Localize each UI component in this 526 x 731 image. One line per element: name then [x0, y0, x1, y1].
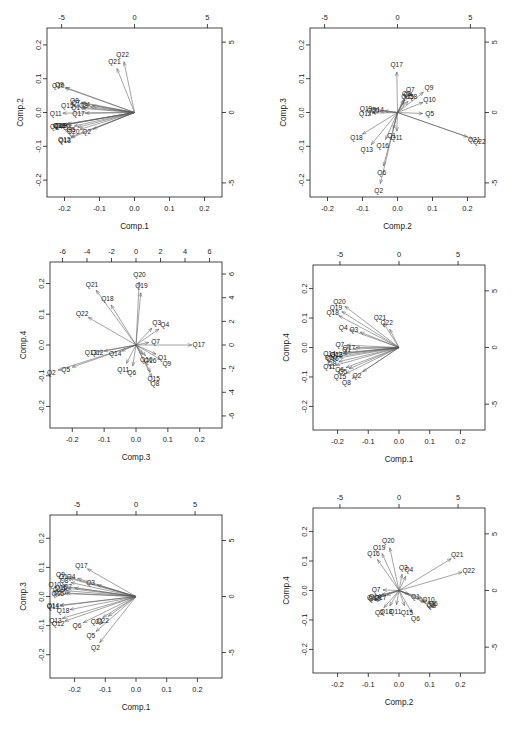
- biplot-panel-panel-comp2-comp3: -0.2-0.10.00.10.2-0.2-0.10.00.10.2-50550…: [263, 0, 526, 240]
- loading-vector-label: Q5: [61, 366, 70, 374]
- x-tick-label: -0.1: [362, 680, 375, 689]
- x-tick-label: -0.1: [98, 435, 111, 444]
- loading-vector-label: Q21: [86, 281, 99, 289]
- right-axis-tick-label: 0: [227, 594, 236, 598]
- y-tick-label: -0.2: [297, 174, 306, 187]
- right-axis-tick-label: -5: [490, 401, 499, 408]
- loading-vector-Q19: Q19: [135, 282, 148, 345]
- loading-vector-Q7: Q7: [136, 338, 160, 346]
- loading-vector-label: Q20: [333, 298, 346, 306]
- loading-vector-label: Q15: [147, 375, 160, 383]
- right-axis-tick-label: 0: [227, 343, 236, 347]
- right-axis-tick-label: -4: [227, 389, 236, 396]
- loading-vector-label: Q5: [86, 632, 95, 640]
- x-tick-label: -0.2: [66, 435, 79, 444]
- top-axis-tick-label: -5: [337, 493, 344, 502]
- x-tick-label: 0.0: [394, 680, 404, 689]
- right-axis-tick-label: -5: [227, 180, 236, 187]
- loading-vector-label: Q14: [109, 350, 122, 358]
- top-axis-tick-label: 0: [397, 493, 401, 502]
- x-tick-label: -0.1: [356, 204, 369, 213]
- loading-vector-label: Q18: [380, 608, 393, 616]
- top-axis-tick-label: 5: [205, 13, 209, 22]
- loading-vector-label: Q17: [75, 562, 88, 570]
- right-axis-tick-label: 0: [490, 345, 499, 349]
- biplot-panel-panel-comp2-comp4: -0.2-0.10.00.10.2-0.2-0.10.00.10.2-50550…: [263, 490, 526, 731]
- loading-vector-label: Q15: [334, 373, 347, 381]
- loading-vector-Q11: Q11: [391, 113, 403, 143]
- loading-vector-label: Q2: [91, 644, 100, 652]
- top-axis-tick-label: -5: [74, 500, 81, 509]
- x-axis-label: Comp.2: [383, 222, 412, 231]
- y-tick-label: 0.0: [37, 591, 46, 601]
- x-tick-label: -0.2: [58, 204, 71, 213]
- x-tick-label: 0.2: [462, 204, 472, 213]
- x-axis-label: Comp.1: [122, 703, 151, 712]
- loading-vector-label: Q22: [462, 567, 475, 575]
- loading-vector-label: Q13: [85, 349, 98, 357]
- y-tick-label: 0.2: [300, 526, 309, 536]
- loading-vector-label: Q17: [72, 110, 85, 118]
- loading-vector-label: Q20: [67, 128, 80, 136]
- loading-vector-Q14: Q14: [109, 345, 136, 358]
- x-tick-label: -0.2: [331, 437, 344, 446]
- right-axis-tick-label: -6: [227, 413, 236, 420]
- loading-vector-label: Q19: [55, 122, 68, 130]
- right-axis-tick-label: 0: [490, 588, 499, 592]
- top-axis-tick-label: 5: [456, 250, 460, 259]
- loading-vector-label: Q10: [422, 596, 435, 604]
- right-axis-tick-label: -5: [490, 180, 499, 187]
- x-tick-label: 0.1: [425, 680, 435, 689]
- loading-vector-label: Q2: [47, 369, 56, 377]
- x-tick-label: -0.2: [68, 685, 81, 694]
- y-tick-label: -0.1: [297, 140, 306, 153]
- y-tick-label: -0.2: [37, 400, 46, 413]
- y-axis-label: Comp.2: [16, 98, 25, 127]
- y-tick-label: 0.1: [297, 74, 306, 84]
- loading-vector-label: Q22: [473, 138, 486, 146]
- x-tick-label: 0.1: [427, 204, 437, 213]
- y-tick-label: 0.0: [297, 107, 306, 117]
- right-axis-tick-label: 5: [490, 532, 499, 536]
- loading-vector-Q17: Q17: [75, 562, 136, 597]
- right-axis-tick-label: 5: [227, 538, 236, 542]
- loading-vector-label: Q15: [401, 93, 414, 101]
- top-axis-tick-label: -5: [321, 13, 328, 22]
- x-tick-label: 0.2: [195, 435, 205, 444]
- x-tick-label: 0.2: [199, 204, 209, 213]
- loading-vector-label: Q11: [117, 366, 129, 374]
- top-axis-tick-label: 5: [456, 493, 460, 502]
- x-tick-label: 0.0: [131, 685, 141, 694]
- top-axis-tick-label: 2: [158, 247, 162, 256]
- loading-vector-label: Q10: [423, 96, 436, 104]
- loading-vector-label: Q20: [367, 107, 380, 115]
- y-tick-label: 0.2: [37, 278, 46, 288]
- loading-vector-label: Q11: [50, 110, 62, 118]
- biplot-matrix: -0.2-0.10.00.10.2-0.2-0.10.00.10.2-50550…: [0, 0, 526, 731]
- x-tick-label: 0.2: [192, 685, 202, 694]
- loading-vector-label: Q19: [330, 304, 343, 312]
- y-axis-label: Comp.4: [282, 333, 291, 362]
- y-axis-label: Comp.4: [282, 576, 291, 605]
- loading-vector-label: Q17: [193, 341, 206, 349]
- x-tick-label: 0.1: [164, 204, 174, 213]
- top-axis-tick-label: 0: [397, 250, 401, 259]
- loading-vector-label: Q15: [401, 609, 414, 617]
- right-axis-tick-label: 0: [490, 110, 499, 114]
- loading-vector-label: Q13: [58, 137, 71, 145]
- loading-vector-label: Q22: [76, 310, 89, 318]
- y-tick-label: 0.1: [300, 556, 309, 566]
- right-axis-tick-label: 4: [227, 296, 236, 300]
- top-axis-tick-label: 0: [395, 13, 399, 22]
- loading-vector-label: Q6: [411, 615, 420, 623]
- loading-vector-label: Q4: [404, 566, 413, 574]
- y-tick-label: -0.2: [300, 400, 309, 413]
- loading-vector-label: Q10: [52, 82, 65, 90]
- right-axis-tick-label: 5: [227, 40, 236, 44]
- right-axis-tick-label: -5: [490, 644, 499, 651]
- top-axis-tick-label: 5: [468, 13, 472, 22]
- loading-vector-label: Q18: [57, 607, 70, 615]
- loading-vector-label: Q5: [425, 110, 434, 118]
- loading-vector-label: Q21: [451, 551, 464, 559]
- biplot-panel-panel-comp1-comp3: -0.2-0.10.00.10.2-0.2-0.10.00.10.2-50550…: [0, 490, 263, 731]
